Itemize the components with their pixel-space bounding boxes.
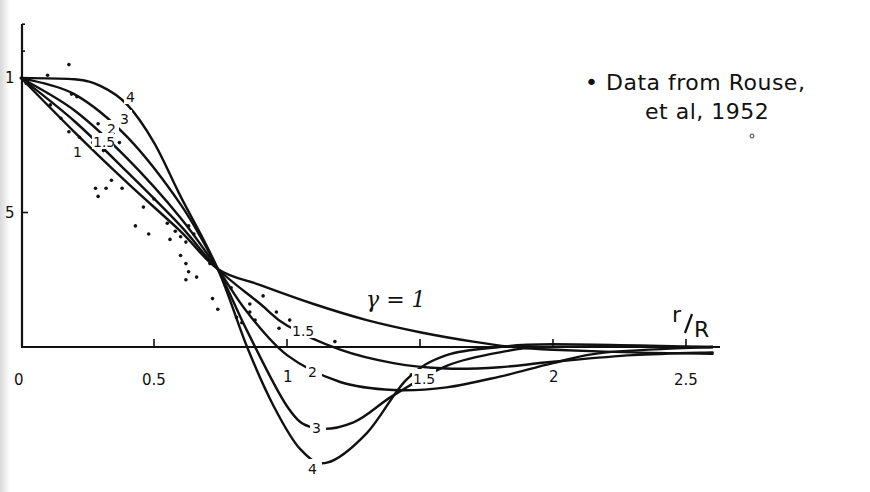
y-tick-label: 5	[5, 204, 15, 222]
data-point	[333, 340, 337, 344]
data-point	[75, 95, 79, 99]
data-point	[187, 270, 191, 274]
data-point	[216, 308, 220, 312]
data-point	[229, 286, 233, 290]
data-point	[134, 224, 138, 228]
data-point	[110, 178, 114, 182]
gamma-label: γ = 1	[366, 287, 426, 312]
x-axis-label-r: r	[672, 302, 682, 327]
data-point	[288, 318, 292, 322]
curve-labels-lower: 1.5 2 3 4 1.5	[291, 322, 436, 477]
data-point	[179, 235, 183, 239]
curve-label-2-lower: 2	[308, 364, 317, 380]
stray-mark	[750, 134, 754, 138]
data-point	[96, 122, 100, 126]
data-point	[211, 297, 215, 301]
curve-label-1-5-right: 1.5	[413, 371, 435, 387]
data-point	[187, 224, 191, 228]
data-point	[49, 103, 53, 107]
data-point	[248, 302, 252, 306]
data-point	[25, 79, 29, 83]
data-point	[104, 187, 108, 191]
legend-line-1: • Data from Rouse,	[585, 70, 805, 95]
velocity-profile-chart: 00.511.522.515 4 3 2 1.5 1 1.5 2 3 4 1.5…	[0, 0, 870, 492]
x-tick-label: 1	[283, 368, 293, 386]
data-point	[168, 238, 172, 242]
curves	[21, 78, 713, 463]
data-point	[179, 254, 183, 258]
axis-tick-labels: 00.511.522.515	[5, 69, 698, 389]
data-point	[240, 321, 244, 325]
data-point	[184, 278, 188, 282]
x-tick-label: 2.5	[674, 371, 698, 389]
data-point	[46, 74, 50, 78]
data-point	[96, 195, 100, 199]
legend-note: • Data from Rouse, et al, 1952	[585, 70, 805, 138]
data-point	[70, 92, 74, 96]
data-point	[67, 63, 71, 67]
curve-label-4-upper: 4	[126, 89, 135, 105]
data-point	[277, 326, 281, 330]
data-point	[184, 240, 188, 244]
y-tick-label: 1	[5, 69, 15, 87]
data-point	[67, 130, 71, 134]
data-point	[147, 232, 151, 236]
x-axis-label-slash	[685, 314, 692, 333]
data-point	[275, 310, 279, 314]
data-point	[248, 310, 252, 314]
data-point	[174, 230, 178, 234]
x-tick-label: 0.5	[142, 371, 166, 389]
data-point	[118, 141, 122, 145]
data-point	[142, 205, 146, 209]
data-point	[184, 262, 188, 266]
data-point	[120, 187, 124, 191]
data-point	[208, 262, 212, 266]
curve-gamma-3	[21, 78, 713, 429]
curve-label-3-upper: 3	[120, 111, 129, 127]
data-point	[192, 232, 196, 236]
data-point	[94, 187, 98, 191]
x-tick-label: 2	[549, 368, 559, 386]
curve-label-3-lower: 3	[312, 420, 321, 436]
legend-line-2: et al, 1952	[645, 99, 769, 124]
curve-label-4-lower: 4	[308, 461, 317, 477]
data-point	[166, 222, 170, 226]
x-axis-label-R: R	[694, 317, 709, 342]
data-point	[59, 117, 63, 121]
curve-label-1-upper: 1	[73, 144, 82, 160]
curve-label-1-5-lower: 1.5	[292, 323, 314, 339]
data-point	[261, 294, 265, 298]
data-point	[253, 318, 257, 322]
data-point	[235, 316, 239, 320]
curve-label-1-5-upper: 1.5	[93, 134, 115, 150]
data-point	[78, 135, 82, 139]
x-axis-label: r R	[672, 302, 709, 342]
data-point	[152, 197, 156, 201]
x-tick-label: 0	[14, 371, 24, 389]
data-point	[195, 275, 199, 279]
